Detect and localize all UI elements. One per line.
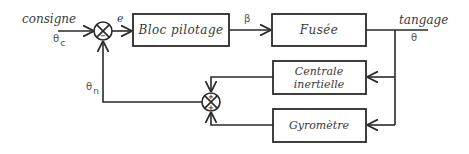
output-label: tangage [399,13,448,27]
plus-sign-top: + [208,93,214,101]
command-label: β [244,13,250,24]
centrale-output-arrow [211,77,273,91]
centrale-label-line2: inertielle [294,78,345,91]
minus-sign: − [100,32,106,40]
centrale-label-line1: Centrale [295,65,344,78]
centrale-inertielle-block: Centrale inertielle [273,61,366,94]
gyrometre-block: Gyromètre [273,109,366,142]
output-symbol: θ [411,32,417,43]
fusee-label: Fusée [299,23,338,37]
feedback-symbol: θn [86,81,99,96]
control-loop-diagram: consigne θc − e Bloc pilotage β Fusée ta… [0,0,469,154]
bloc-pilotage-block: Bloc pilotage [133,14,229,46]
fusee-block: Fusée [272,14,366,46]
input-symbol: θc [53,33,65,48]
input-label: consigne [22,12,76,26]
plus-sign-bottom: + [208,104,214,112]
feedback-summing-junction: + + [202,93,220,112]
main-summing-junction: − [94,22,112,40]
gyrometre-label: Gyromètre [289,119,350,132]
gyrometre-output-arrow [211,113,273,125]
feedback-arrow [103,42,202,102]
bloc-pilotage-label: Bloc pilotage [138,23,224,37]
error-label: e [117,12,124,25]
